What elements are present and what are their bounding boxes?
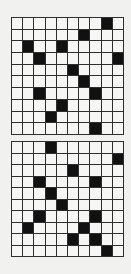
grid-cell-filled[interactable]: [34, 177, 44, 188]
grid-cell[interactable]: [23, 165, 33, 176]
grid-cell[interactable]: [90, 53, 100, 64]
grid-cell[interactable]: [68, 100, 78, 111]
grid-cell[interactable]: [102, 223, 112, 234]
grid-cell[interactable]: [113, 234, 123, 245]
grid-cell[interactable]: [79, 200, 89, 211]
grid-cell[interactable]: [79, 41, 89, 52]
grid-cell[interactable]: [102, 100, 112, 111]
grid-cell[interactable]: [68, 246, 78, 257]
grid-cell[interactable]: [113, 41, 123, 52]
grid-cell[interactable]: [102, 177, 112, 188]
grid-cell[interactable]: [90, 112, 100, 123]
grid-cell[interactable]: [102, 123, 112, 134]
grid-cell[interactable]: [79, 165, 89, 176]
grid-cell-filled[interactable]: [113, 53, 123, 64]
grid-cell[interactable]: [79, 177, 89, 188]
grid-cell[interactable]: [12, 53, 22, 64]
grid-cell[interactable]: [46, 76, 56, 87]
grid-cell[interactable]: [57, 65, 67, 76]
grid-cell[interactable]: [102, 154, 112, 165]
grid-cell[interactable]: [34, 18, 44, 29]
grid-cell-filled[interactable]: [34, 211, 44, 222]
grid-cell[interactable]: [46, 88, 56, 99]
grid-cell-filled[interactable]: [46, 112, 56, 123]
grid-cell-filled[interactable]: [79, 30, 89, 41]
grid-cell[interactable]: [57, 223, 67, 234]
grid-cell[interactable]: [90, 188, 100, 199]
grid-cell[interactable]: [57, 211, 67, 222]
grid-cell[interactable]: [46, 200, 56, 211]
grid-cell[interactable]: [12, 177, 22, 188]
grid-cell[interactable]: [23, 154, 33, 165]
grid-cell[interactable]: [68, 223, 78, 234]
grid-cell[interactable]: [34, 112, 44, 123]
grid-cell-filled[interactable]: [90, 234, 100, 245]
grid-cell[interactable]: [102, 142, 112, 153]
grid-cell[interactable]: [46, 65, 56, 76]
grid-cell[interactable]: [90, 154, 100, 165]
grid-cell[interactable]: [46, 41, 56, 52]
grid-cell[interactable]: [23, 188, 33, 199]
grid-cell[interactable]: [68, 200, 78, 211]
grid-cell[interactable]: [57, 177, 67, 188]
grid-cell[interactable]: [68, 112, 78, 123]
grid-cell[interactable]: [23, 177, 33, 188]
grid-cell[interactable]: [12, 142, 22, 153]
grid-cell[interactable]: [34, 76, 44, 87]
grid-cell[interactable]: [113, 65, 123, 76]
grid-cell[interactable]: [68, 53, 78, 64]
grid-cell[interactable]: [57, 165, 67, 176]
grid-cell[interactable]: [90, 246, 100, 257]
grid-cell[interactable]: [79, 211, 89, 222]
grid-cell[interactable]: [113, 165, 123, 176]
grid-cell-filled[interactable]: [34, 88, 44, 99]
grid-cell-filled[interactable]: [68, 165, 78, 176]
grid-cell-filled[interactable]: [102, 18, 112, 29]
grid-cell[interactable]: [68, 188, 78, 199]
grid-cell[interactable]: [68, 211, 78, 222]
grid-cell[interactable]: [46, 165, 56, 176]
grid-cell[interactable]: [12, 123, 22, 134]
grid-cell-filled[interactable]: [102, 246, 112, 257]
grid-cell[interactable]: [23, 76, 33, 87]
grid-cell[interactable]: [113, 100, 123, 111]
grid-cell[interactable]: [102, 112, 112, 123]
grid-cell[interactable]: [113, 246, 123, 257]
grid-cell[interactable]: [68, 123, 78, 134]
grid-cell[interactable]: [12, 112, 22, 123]
grid-cell[interactable]: [57, 30, 67, 41]
grid-cell[interactable]: [102, 234, 112, 245]
grid-cell[interactable]: [57, 112, 67, 123]
grid-cell-filled[interactable]: [46, 142, 56, 153]
grid-cell[interactable]: [12, 165, 22, 176]
grid-cell-filled[interactable]: [90, 123, 100, 134]
grid-cell[interactable]: [23, 234, 33, 245]
grid-cell[interactable]: [46, 211, 56, 222]
grid-cell[interactable]: [68, 30, 78, 41]
grid-cell[interactable]: [12, 18, 22, 29]
grid-cell[interactable]: [12, 246, 22, 257]
grid-cell[interactable]: [46, 223, 56, 234]
grid-cell[interactable]: [12, 41, 22, 52]
grid-cell[interactable]: [102, 76, 112, 87]
grid-cell[interactable]: [12, 76, 22, 87]
grid-cell-filled[interactable]: [46, 188, 56, 199]
grid-cell-filled[interactable]: [79, 76, 89, 87]
grid-cell[interactable]: [102, 53, 112, 64]
grid-cell[interactable]: [34, 234, 44, 245]
grid-cell[interactable]: [46, 53, 56, 64]
grid-cell-filled[interactable]: [34, 53, 44, 64]
grid-cell[interactable]: [57, 123, 67, 134]
grid-cell[interactable]: [79, 53, 89, 64]
grid-cell[interactable]: [34, 65, 44, 76]
grid-cell-filled[interactable]: [90, 211, 100, 222]
grid-cell[interactable]: [113, 211, 123, 222]
grid-cell[interactable]: [102, 165, 112, 176]
grid-cell[interactable]: [90, 165, 100, 176]
grid-cell[interactable]: [57, 246, 67, 257]
grid-cell[interactable]: [90, 65, 100, 76]
grid-cell[interactable]: [46, 154, 56, 165]
grid-cell[interactable]: [79, 154, 89, 165]
grid-cell[interactable]: [12, 100, 22, 111]
grid-cell[interactable]: [79, 88, 89, 99]
